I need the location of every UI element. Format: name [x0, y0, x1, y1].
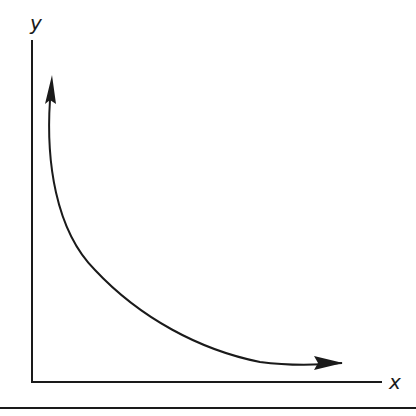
curve [49, 100, 342, 365]
x-axis-label: x [388, 370, 401, 394]
curve-arrowhead-right [314, 356, 343, 370]
diagram-canvas: y x [0, 0, 416, 416]
y-axis-label: y [29, 11, 43, 35]
curve-arrowhead-top [45, 75, 56, 104]
